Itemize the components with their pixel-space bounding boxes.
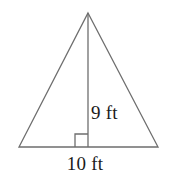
base-dimension-label: 10 ft [0, 154, 170, 173]
right-angle-marker-icon [75, 134, 88, 147]
geometry-figure: 9 ft 10 ft [0, 0, 170, 182]
height-dimension-label: 9 ft [91, 103, 118, 122]
